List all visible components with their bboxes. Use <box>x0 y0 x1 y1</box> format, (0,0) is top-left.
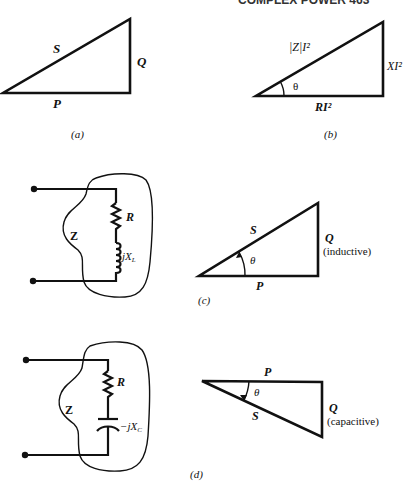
label-p: P <box>256 279 264 293</box>
label-theta: θ <box>293 80 298 92</box>
label-xi2: XI² <box>386 59 402 73</box>
power-triangle-capacitive <box>202 381 322 437</box>
label-p: P <box>53 96 62 111</box>
panel-d-triangle: P θ S Q (capacitive) (d) <box>190 365 379 481</box>
angle-arc <box>281 82 285 96</box>
label-r: R <box>116 375 125 389</box>
label-jxc: −jXC <box>120 420 142 434</box>
wire-top <box>26 360 108 371</box>
label-theta: θ <box>250 254 256 266</box>
label-jxl: jXL <box>120 250 136 264</box>
label-capacitive: (capacitive) <box>327 415 379 428</box>
wire-top <box>34 189 116 203</box>
label-z: Z <box>65 403 73 417</box>
label-zi2: |Z|I² <box>289 40 310 54</box>
label-p: P <box>264 365 272 379</box>
label-inductive: (inductive) <box>323 245 372 258</box>
caption-d: (d) <box>190 468 203 481</box>
caption-b: (b) <box>324 128 337 141</box>
caption-c: (c) <box>198 294 211 307</box>
power-triangle-a <box>3 19 130 93</box>
power-triangle-b <box>256 22 383 96</box>
power-triangle-inductive <box>199 203 318 276</box>
label-ri2: RI² <box>314 100 332 114</box>
resistor-symbol <box>104 371 112 419</box>
panel-a: S Q P (a) <box>3 19 147 141</box>
panel-c-triangle: S Q (inductive) P θ (c) <box>198 203 372 307</box>
caption-a: (a) <box>71 128 84 141</box>
wire-bottom <box>25 427 108 455</box>
panel-d-circuit: R −jXC Z <box>22 342 150 471</box>
panel-b: |Z|I² XI² RI² θ (b) <box>256 22 402 141</box>
label-r: R <box>125 210 134 224</box>
label-q: Q <box>137 54 147 69</box>
power-triangle-figure: COMPLEX POWER 463 S Q P (a) |Z|I² XI² RI… <box>0 0 406 483</box>
label-s: S <box>53 41 60 56</box>
label-z: Z <box>70 229 78 243</box>
label-q: Q <box>329 401 338 415</box>
panel-c-circuit: R jXL Z <box>30 174 153 297</box>
page-header: COMPLEX POWER 463 <box>238 0 370 7</box>
label-s: S <box>252 409 259 423</box>
label-s: S <box>250 223 257 237</box>
label-theta: θ <box>254 386 260 398</box>
label-q: Q <box>325 231 334 245</box>
resistor-symbol <box>112 203 120 243</box>
